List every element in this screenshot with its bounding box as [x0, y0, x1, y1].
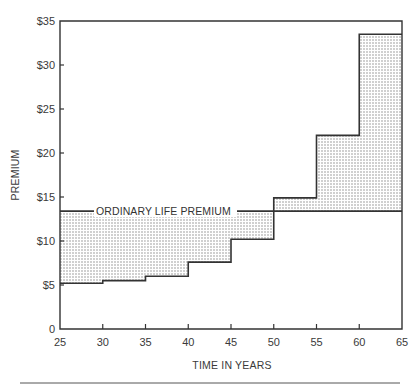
- shade-segment: [317, 135, 360, 211]
- x-tick-label: 65: [396, 336, 408, 348]
- y-tick-label: 0: [49, 323, 55, 335]
- y-tick-label: $5: [43, 279, 55, 291]
- x-tick-label: 35: [139, 336, 151, 348]
- shade-segment: [231, 211, 274, 239]
- y-tick-label: $15: [37, 191, 55, 203]
- y-tick-label: $30: [37, 59, 55, 71]
- y-tick-label: $35: [37, 15, 55, 27]
- y-tick-label: $10: [37, 235, 55, 247]
- x-tick-label: 25: [54, 336, 66, 348]
- y-tick-label: $25: [37, 103, 55, 115]
- ordinary-life-annotation: ORDINARY LIFE PREMIUM: [96, 205, 231, 217]
- x-tick-label: 40: [182, 336, 194, 348]
- x-axis-title: TIME IN YEARS: [192, 359, 271, 371]
- x-tick-label: 55: [310, 336, 322, 348]
- shade-segment: [103, 211, 146, 281]
- x-tick-label: 50: [268, 336, 280, 348]
- x-tick-label: 60: [353, 336, 365, 348]
- shade-segment: [60, 211, 103, 283]
- shade-segment: [274, 198, 317, 211]
- shade-segment: [188, 211, 231, 262]
- y-axis-title: PREMIUM: [9, 150, 21, 201]
- shade-segment: [359, 34, 402, 211]
- x-tick-label: 30: [97, 336, 109, 348]
- shade-segment: [146, 211, 189, 276]
- x-tick-label: 45: [225, 336, 237, 348]
- y-tick-label: $20: [37, 147, 55, 159]
- premium-step-chart: 0$5$10$15$20$25$30$35 253035404550556065…: [0, 0, 418, 389]
- x-axis-ticks: 253035404550556065: [54, 324, 408, 348]
